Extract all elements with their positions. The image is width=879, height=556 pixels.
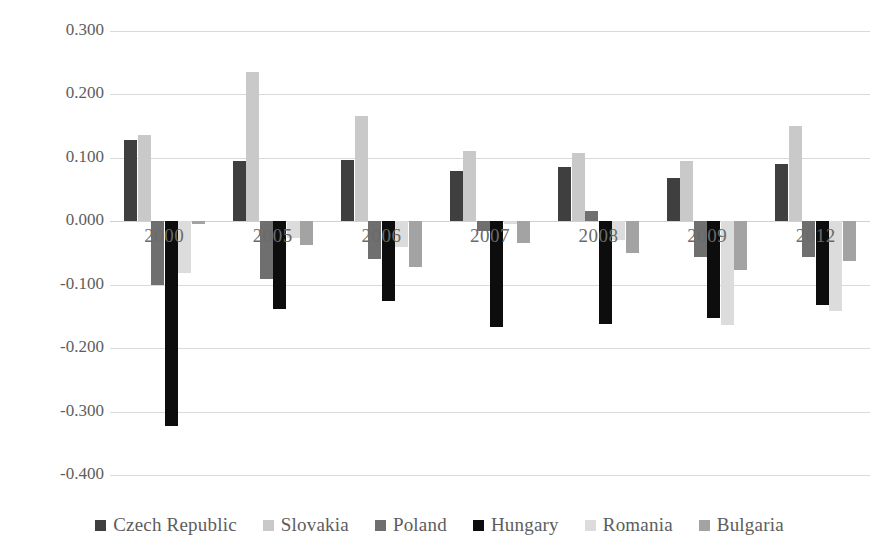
x-axis-tick-label: 2008 — [544, 225, 653, 247]
bar[interactable] — [789, 126, 802, 222]
bar[interactable] — [667, 178, 680, 222]
plot-area: 2000200520062007200820092012 — [110, 10, 870, 490]
bar-group: 2000 — [110, 10, 219, 490]
x-axis-tick-label: 2012 — [761, 225, 870, 247]
bar[interactable] — [504, 221, 517, 224]
bar[interactable] — [165, 221, 178, 425]
legend-item[interactable]: Bulgaria — [699, 514, 784, 536]
bar-group: 2009 — [653, 10, 762, 490]
bar[interactable] — [450, 171, 463, 221]
bar[interactable] — [775, 164, 788, 222]
legend-swatch-icon — [699, 520, 710, 531]
bar[interactable] — [355, 116, 368, 221]
legend-label: Poland — [393, 514, 447, 536]
y-axis-tick-label: 0.100 — [28, 147, 104, 167]
x-axis-tick-label: 2005 — [219, 225, 328, 247]
y-axis-tick-label: 0.300 — [28, 20, 104, 40]
y-axis-tick-label: 0.000 — [28, 210, 104, 230]
y-axis-tick-labels: 0.3000.2000.1000.000-0.100-0.200-0.300-0… — [28, 10, 104, 490]
bar-group: 2007 — [436, 10, 545, 490]
bar-group: 2012 — [761, 10, 870, 490]
bar[interactable] — [680, 161, 693, 221]
bar[interactable] — [585, 211, 598, 221]
legend-label: Romania — [603, 514, 673, 536]
bar[interactable] — [138, 135, 151, 221]
rca-index-bar-chart: RCA index 0.3000.2000.1000.000-0.100-0.2… — [0, 0, 879, 556]
legend-label: Bulgaria — [717, 514, 784, 536]
y-axis-tick-label: -0.300 — [28, 401, 104, 421]
y-axis-tick-label: 0.200 — [28, 83, 104, 103]
bar[interactable] — [233, 161, 246, 221]
x-axis-tick-label: 2000 — [110, 225, 219, 247]
y-axis-tick-label: -0.100 — [28, 274, 104, 294]
bar[interactable] — [572, 153, 585, 221]
legend-item[interactable]: Slovakia — [263, 514, 349, 536]
legend-swatch-icon — [473, 520, 484, 531]
bar-group: 2005 — [219, 10, 328, 490]
x-axis-tick-label: 2009 — [653, 225, 762, 247]
legend-swatch-icon — [375, 520, 386, 531]
x-axis-tick-label: 2006 — [327, 225, 436, 247]
legend-swatch-icon — [585, 520, 596, 531]
chart-legend: Czech RepublicSlovakiaPolandHungaryRoman… — [0, 505, 879, 545]
legend-item[interactable]: Czech Republic — [95, 514, 237, 536]
y-axis-tick-label: -0.200 — [28, 337, 104, 357]
y-axis-tick-label: -0.400 — [28, 464, 104, 484]
legend-label: Slovakia — [281, 514, 349, 536]
legend-item[interactable]: Hungary — [473, 514, 559, 536]
legend-item[interactable]: Poland — [375, 514, 447, 536]
legend-item[interactable]: Romania — [585, 514, 673, 536]
bar[interactable] — [341, 160, 354, 221]
bar[interactable] — [246, 72, 259, 221]
bar[interactable] — [124, 140, 137, 221]
legend-swatch-icon — [95, 520, 106, 531]
bar-group: 2008 — [544, 10, 653, 490]
x-axis-tick-label: 2007 — [436, 225, 545, 247]
legend-label: Czech Republic — [113, 514, 237, 536]
bar[interactable] — [192, 221, 205, 224]
legend-label: Hungary — [491, 514, 559, 536]
legend-swatch-icon — [263, 520, 274, 531]
bar[interactable] — [558, 167, 571, 221]
bar[interactable] — [463, 151, 476, 221]
bar-group: 2006 — [327, 10, 436, 490]
